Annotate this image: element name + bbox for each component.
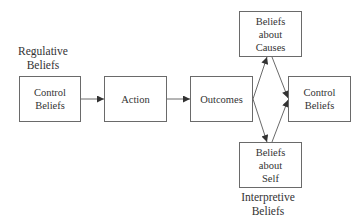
arrow-outcomes-to-causes bbox=[253, 57, 267, 99]
arrow-outcomes-to-self bbox=[253, 99, 267, 142]
node-label: Control Beliefs bbox=[303, 86, 335, 112]
arrow-self-to-control bbox=[272, 100, 288, 142]
node-label: Beliefs about Self bbox=[256, 146, 286, 185]
node-label: Action bbox=[121, 93, 150, 106]
arrow-causes-to-control bbox=[272, 57, 288, 98]
node-beliefs-about-causes: Beliefs about Causes bbox=[239, 11, 302, 57]
group-label-interpretive-beliefs: Interpretive Beliefs bbox=[232, 190, 304, 218]
node-label: Control Beliefs bbox=[34, 86, 66, 112]
node-outcomes: Outcomes bbox=[190, 76, 253, 122]
node-label: Beliefs about Causes bbox=[256, 15, 286, 54]
node-label: Outcomes bbox=[200, 93, 243, 106]
node-control-beliefs-right: Control Beliefs bbox=[288, 76, 351, 122]
node-action: Action bbox=[104, 76, 167, 122]
node-beliefs-about-self: Beliefs about Self bbox=[239, 142, 302, 188]
group-label-regulative-beliefs: Regulative Beliefs bbox=[14, 44, 72, 72]
node-control-beliefs-left: Control Beliefs bbox=[19, 76, 81, 122]
